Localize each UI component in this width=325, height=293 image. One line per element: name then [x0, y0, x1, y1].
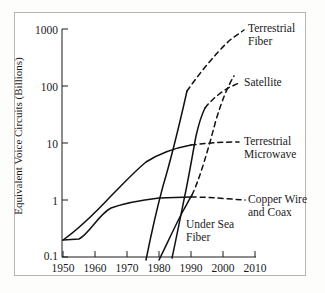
series-label-satellite-text: Satellite	[244, 76, 282, 88]
series-label-terrestrial-microwave-line2: Microwave	[244, 148, 296, 160]
series-label-terrestrial-microwave: Terrestrial Microwave	[244, 135, 296, 160]
series-label-terrestrial-fiber-line1: Terrestrial	[248, 22, 295, 34]
series-under-sea-fiber-dashed	[192, 76, 234, 195]
figure-container: Equivalent Voice Circuits (Billions) 100…	[0, 0, 325, 293]
series-terrestrial-microwave-solid	[63, 145, 191, 240]
series-label-copper-line1: Copper Wire	[248, 193, 307, 205]
series-label-terrestrial-fiber-line2: Fiber	[248, 35, 272, 47]
series-terrestrial-fiber-solid	[146, 91, 187, 260]
series-terrestrial-fiber-dashed	[187, 30, 244, 91]
series-terrestrial-microwave-dashed	[191, 142, 239, 145]
series-label-copper-line2: and Coax	[248, 206, 292, 218]
series-satellite-dashed	[205, 83, 239, 108]
series-label-satellite: Satellite	[244, 76, 282, 89]
series-label-terrestrial-microwave-line1: Terrestrial	[244, 135, 291, 147]
series-label-copper-wire-and-coax: Copper Wire and Coax	[248, 193, 307, 218]
series-label-under-sea-fiber-line1: Under Sea	[186, 218, 234, 230]
series-copper-wire-and-coax-dashed	[191, 197, 245, 200]
series-label-under-sea-fiber-line2: Fiber	[186, 231, 210, 243]
series-label-under-sea-fiber: Under Sea Fiber	[186, 218, 234, 243]
series-label-terrestrial-fiber: Terrestrial Fiber	[248, 22, 295, 47]
